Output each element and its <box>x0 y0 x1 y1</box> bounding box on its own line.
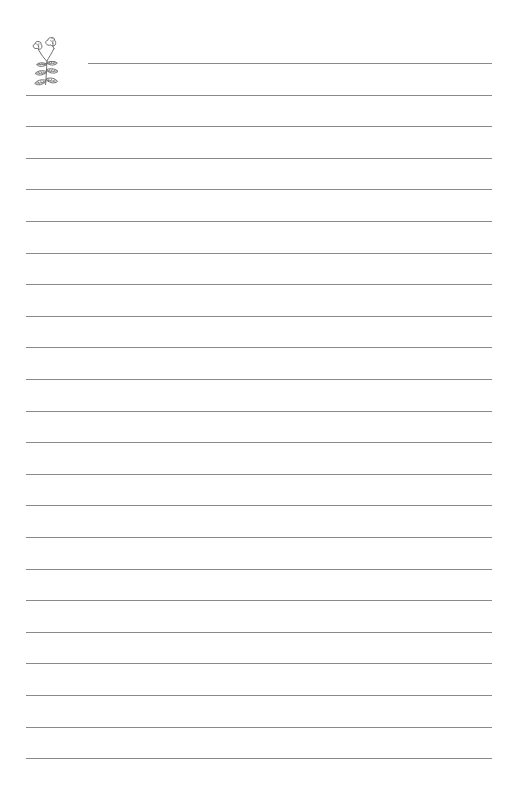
ruled-line <box>26 189 492 190</box>
ruled-line <box>26 537 492 538</box>
ruled-line <box>26 505 492 506</box>
ruled-line <box>26 379 492 380</box>
page-title: Lined Notepaper Sheet <box>0 21 1 22</box>
ruled-line <box>88 63 492 64</box>
ruled-line <box>26 95 492 96</box>
ruled-line <box>26 284 492 285</box>
ruled-line <box>26 221 492 222</box>
ruled-line <box>26 158 492 159</box>
ruled-line <box>26 253 492 254</box>
ruled-line <box>26 727 492 728</box>
ruled-line <box>26 411 492 412</box>
ruled-line <box>26 632 492 633</box>
ruled-line <box>26 126 492 127</box>
ruled-line <box>26 569 492 570</box>
ruled-line <box>26 347 492 348</box>
flower-sprig-icon <box>26 30 74 90</box>
ruled-line <box>26 442 492 443</box>
stationery-sheet: Lined Notepaper Sheet <box>0 0 516 805</box>
ruled-line <box>26 600 492 601</box>
ruled-line <box>26 316 492 317</box>
ruled-line <box>26 663 492 664</box>
ruled-line <box>26 695 492 696</box>
ruled-line <box>26 758 492 759</box>
ruled-line <box>26 474 492 475</box>
